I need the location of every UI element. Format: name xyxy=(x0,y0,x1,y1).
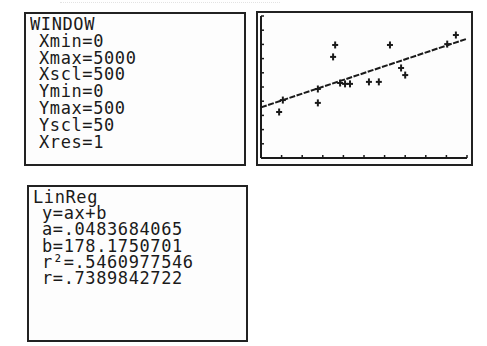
data-point xyxy=(332,41,338,48)
cropped-previous-content xyxy=(60,0,280,3)
scatter-plot xyxy=(258,13,475,168)
regression-line xyxy=(261,39,467,108)
scatter-plot-screen xyxy=(256,11,473,166)
window-param-xres: Xres=1 xyxy=(30,133,137,151)
window-settings-screen: WINDOW Xmin=0 Xmax=5000 Xscl=500 Ymin=0 … xyxy=(24,12,246,166)
data-point xyxy=(366,78,372,85)
data-point xyxy=(402,72,408,79)
data-point xyxy=(347,80,353,87)
data-point xyxy=(280,97,286,104)
linreg-r: r=.7389842722 xyxy=(33,269,194,286)
data-point xyxy=(444,41,450,48)
linreg-results-screen: LinReg y=ax+b a=.0483684065 b=178.175070… xyxy=(27,185,248,342)
data-point xyxy=(398,64,404,71)
data-point xyxy=(387,41,393,48)
data-point xyxy=(453,32,459,39)
data-point xyxy=(315,99,321,106)
data-point xyxy=(330,53,336,60)
data-point xyxy=(315,85,321,92)
data-point xyxy=(276,108,282,115)
data-point xyxy=(376,78,382,85)
